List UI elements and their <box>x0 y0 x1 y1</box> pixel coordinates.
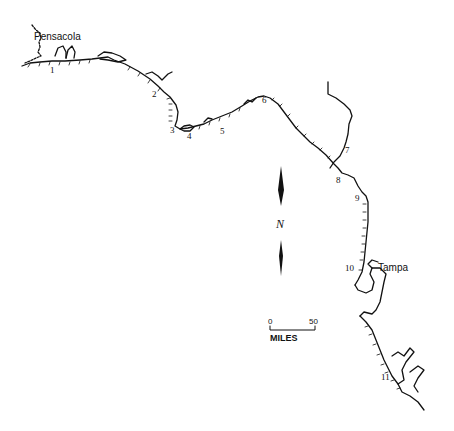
scale-bar-line <box>270 326 315 330</box>
site-marker-5: 5 <box>220 127 225 136</box>
coastline-drawing <box>0 0 454 431</box>
state-border-north <box>328 82 352 168</box>
tampa-bay <box>355 268 386 316</box>
site-marker-1: 1 <box>50 66 55 75</box>
city-label-tampa: Tampa <box>378 263 408 273</box>
north-label: N <box>276 218 284 230</box>
site-marker-7: 7 <box>345 146 350 155</box>
site-marker-3: 3 <box>170 126 175 135</box>
site-marker-4: 4 <box>187 132 192 141</box>
pensacola-bay <box>55 46 66 58</box>
site-marker-11: 11 <box>381 373 390 382</box>
site-marker-9: 9 <box>355 194 360 203</box>
city-label-pensacola: Pensacola <box>34 32 81 42</box>
scale-end-label: 50 <box>309 318 318 326</box>
site-marker-10: 10 <box>345 264 354 273</box>
map-canvas: Pensacola Tampa 1 2 3 4 5 6 7 8 9 10 11 … <box>0 0 454 431</box>
southwest-coastline <box>360 316 424 410</box>
site-marker-6: 6 <box>262 96 267 105</box>
scale-unit-label: MILES <box>270 334 298 343</box>
scale-start-label: 0 <box>268 318 272 326</box>
site-marker-2: 2 <box>152 90 157 99</box>
site-marker-8: 8 <box>336 176 341 185</box>
panhandle-coastline <box>22 57 368 285</box>
